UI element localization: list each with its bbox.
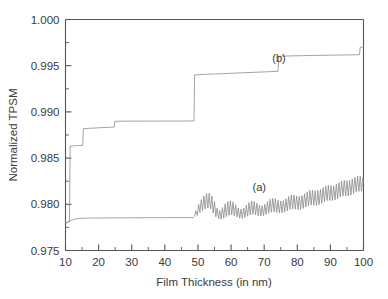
y-tick-label: 0.990 [31,106,60,118]
tick-marks-group [66,20,364,251]
figure-container: 0.9750.9800.9850.9900.9951.0001020304050… [0,0,388,299]
axes-group [66,20,364,251]
x-tick-label: 10 [59,256,72,268]
curve-label-a: (a) [252,181,265,193]
x-tick-label: 80 [291,256,304,268]
x-tick-label: 20 [92,256,105,268]
curve-annotations-group: (a)(b) [252,52,285,194]
curve-b [66,47,364,223]
curve-a [66,176,364,223]
curve-label-b: (b) [272,52,285,64]
x-tick-label: 50 [192,256,205,268]
x-axis-title: Film Thickness (in nm) [156,276,272,288]
y-tick-label: 1.000 [31,14,60,26]
y-tick-label: 0.980 [31,198,60,210]
x-tick-label: 90 [324,256,337,268]
x-tick-label: 30 [125,256,138,268]
y-tick-label: 0.985 [31,152,60,164]
x-tick-label: 70 [258,256,271,268]
x-tick-label: 40 [158,256,171,268]
chart-canvas: 0.9750.9800.9850.9900.9951.0001020304050… [0,0,388,299]
y-axis-title: Normalized TPSM [7,88,19,181]
x-tick-label: 60 [225,256,238,268]
x-tick-label: 100 [354,256,373,268]
y-tick-label: 0.995 [31,60,60,72]
tick-labels-group: 0.9750.9800.9850.9900.9951.0001020304050… [31,14,373,268]
y-tick-label: 0.975 [31,245,60,257]
data-curves-group [66,47,364,223]
